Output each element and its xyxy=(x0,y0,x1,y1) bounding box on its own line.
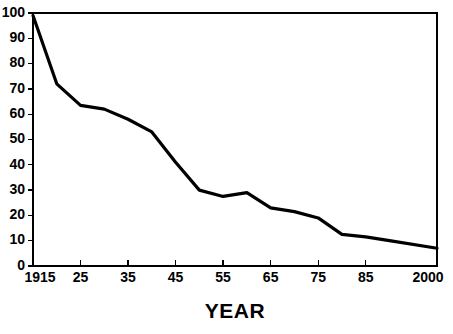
x-tick-label: 2000 xyxy=(412,269,443,285)
line-chart: 0102030405060708090100 19152535455565758… xyxy=(0,0,453,334)
x-axis-tick-labels: 1915253545556575852000 xyxy=(24,269,443,285)
x-tick-label: 35 xyxy=(120,269,136,285)
x-tick-label: 75 xyxy=(310,269,326,285)
x-axis-title: YEAR xyxy=(205,299,265,322)
x-tick-label: 85 xyxy=(358,269,374,285)
y-tick-label: 80 xyxy=(9,54,25,70)
x-tick-label: 65 xyxy=(263,269,279,285)
y-tick-label: 90 xyxy=(9,29,25,45)
chart-container: 0102030405060708090100 19152535455565758… xyxy=(0,0,453,334)
y-tick-label: 70 xyxy=(9,80,25,96)
x-tick-label: 25 xyxy=(73,269,89,285)
y-tick-label: 40 xyxy=(9,156,25,172)
y-tick-label: 10 xyxy=(9,231,25,247)
y-tick-label: 60 xyxy=(9,105,25,121)
y-axis-tick-labels: 0102030405060708090100 xyxy=(2,4,26,273)
y-tick-label: 100 xyxy=(2,4,26,20)
x-tick-label: 55 xyxy=(215,269,231,285)
x-tick-label: 45 xyxy=(168,269,184,285)
y-tick-label: 50 xyxy=(9,130,25,146)
y-tick-label: 30 xyxy=(9,181,25,197)
x-tick-label: 1915 xyxy=(24,269,55,285)
plot-area-frame xyxy=(33,13,437,266)
y-tick-label: 20 xyxy=(9,206,25,222)
